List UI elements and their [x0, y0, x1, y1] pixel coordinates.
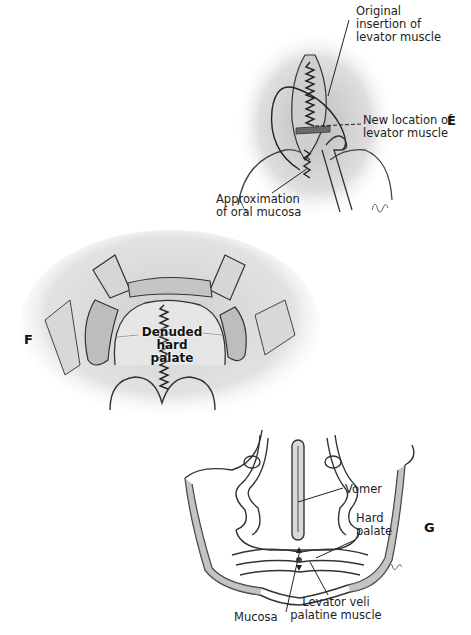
label-original-insertion: Original insertion of levator muscle	[356, 5, 441, 44]
panel-e: Original insertion of levator muscle New…	[0, 0, 471, 230]
panel-letter-e: E	[447, 113, 456, 128]
panel-g: Vomer Hard palate G Mucosa Levator veli …	[0, 410, 471, 635]
label-hard-palate: Hard palate	[356, 512, 392, 538]
label-levator-veli-palatine: Levator veli palatine muscle	[288, 596, 384, 622]
panel-letter-g: G	[424, 520, 435, 535]
panel-letter-f: F	[24, 332, 33, 347]
label-new-location: New location of levator muscle	[363, 114, 452, 140]
panel-f-illustration	[0, 225, 471, 420]
label-mucosa: Mucosa	[234, 611, 278, 624]
label-denuded-hard-palate: Denuded hard palate	[138, 326, 206, 365]
label-approximation: Approximation of oral mucosa	[216, 193, 301, 219]
panel-f: Denuded hard palate F	[0, 225, 471, 420]
panel-g-illustration	[0, 410, 471, 635]
label-vomer: Vomer	[345, 483, 382, 496]
